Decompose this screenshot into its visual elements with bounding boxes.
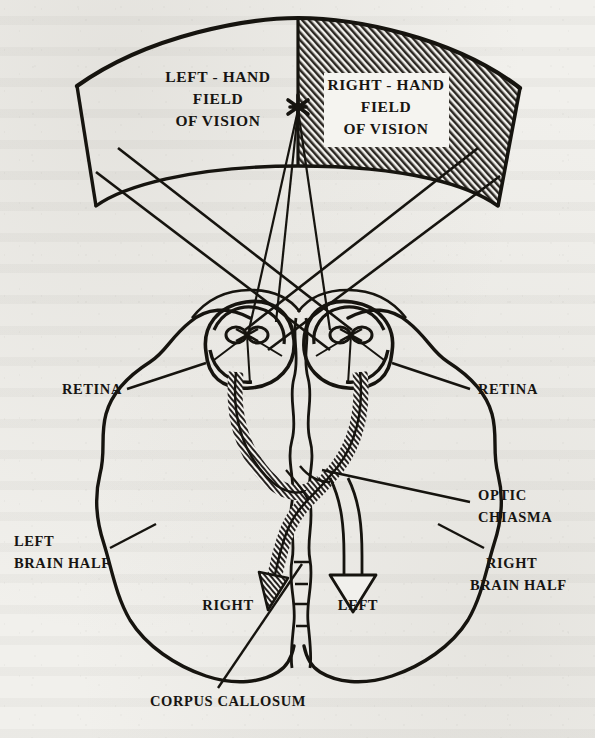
left-field-label-line1: LEFT - HAND bbox=[165, 68, 270, 85]
visual-pathway-diagram: LEFT - HAND FIELD OF VISION RIGHT - HAND… bbox=[0, 0, 595, 738]
leader-retina-right bbox=[392, 363, 470, 389]
right-brain-half-label-line2: BRAIN HALF bbox=[470, 577, 567, 593]
optic-chiasma-label-line2: CHIASMA bbox=[478, 509, 552, 525]
right-brain-half-label-line1: RIGHT bbox=[486, 555, 537, 571]
retina-label-left: RETINA bbox=[62, 381, 122, 397]
sightline-right-outer-to-left-eye-b bbox=[268, 176, 500, 350]
right-field-label-line2: FIELD bbox=[361, 98, 411, 115]
leader-right-brain-half bbox=[438, 524, 484, 548]
right-field-label-line1: RIGHT - HAND bbox=[327, 76, 444, 93]
field-band-left-edge bbox=[77, 86, 96, 206]
right-field-label-line3: OF VISION bbox=[343, 120, 428, 137]
corpus-callosum-label: CORPUS CALLOSUM bbox=[150, 693, 306, 709]
leader-retina-left bbox=[127, 363, 206, 389]
figure-canvas: LEFT - HAND FIELD OF VISION RIGHT - HAND… bbox=[0, 0, 595, 738]
optic-chiasma-label-line1: OPTIC bbox=[478, 487, 527, 503]
uncrossed-arrow-label: LEFT bbox=[338, 597, 378, 613]
leader-corpus-callosum bbox=[218, 564, 302, 688]
eye-right bbox=[298, 290, 406, 388]
left-field-label-line2: FIELD bbox=[193, 90, 243, 107]
leader-optic-chiasma bbox=[322, 470, 470, 502]
left-field-label-line3: OF VISION bbox=[175, 112, 260, 129]
left-brain-half-label-line2: BRAIN HALF bbox=[14, 555, 111, 571]
leader-left-brain-half bbox=[110, 524, 156, 548]
sightline-fixation-to-left-eye bbox=[249, 110, 298, 330]
left-brain-half-label-line1: LEFT bbox=[14, 533, 54, 549]
crossed-arrow-label: RIGHT bbox=[202, 597, 253, 613]
optic-tract-uncrossed-right-edge bbox=[348, 478, 362, 578]
retina-label-right: RETINA bbox=[478, 381, 538, 397]
eye-left bbox=[192, 290, 300, 388]
optic-tract-uncrossed-left-edge bbox=[330, 478, 344, 578]
